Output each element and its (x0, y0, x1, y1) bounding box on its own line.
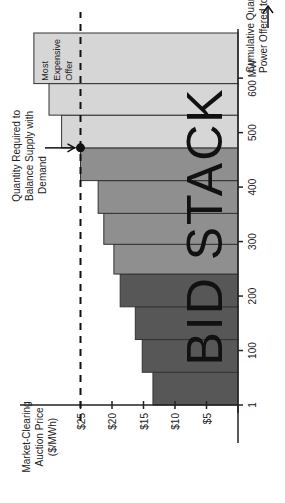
demand-annotation-line: Quantity Required to (11, 110, 22, 202)
quantity-axis-label-line: Power Offered to Market (258, 0, 269, 73)
bid-stack-chart: BID STACK$5$10$15$20$2511002003004005006… (0, 0, 285, 503)
demand-annotation-line: Balance Supply with (24, 111, 35, 201)
quantity-tick-label: 1 (247, 402, 258, 408)
bid-stack-label: BID STACK (177, 87, 233, 365)
price-axis-label-line: Auction Price (34, 407, 45, 466)
expensive-annotation-line: Most (40, 61, 50, 81)
bid-bar (153, 372, 238, 405)
price-axis-label-line: Market-Clearing (21, 401, 32, 472)
price-tick-label: $5 (202, 413, 213, 425)
price-axis-label-line: ($/MWh) (47, 418, 58, 456)
expensive-annotation-line: Expensive (52, 39, 62, 81)
quantity-tick-label: 300 (247, 233, 258, 250)
price-tick-label: $20 (107, 413, 118, 430)
demand-point-marker (76, 143, 85, 152)
quantity-tick-label: 500 (247, 124, 258, 141)
price-tick-label: $15 (139, 413, 150, 430)
quantity-tick-label: 100 (247, 342, 258, 359)
quantity-axis-label-line: Cumulative Quantity of (245, 0, 256, 73)
expensive-annotation-line: Offer (64, 61, 74, 81)
price-tick-label: $10 (170, 413, 181, 430)
quantity-tick-label: 200 (247, 287, 258, 304)
quantity-tick-label: 400 (247, 178, 258, 195)
chart-canvas: BID STACK$5$10$15$20$2511002003004005006… (0, 0, 285, 503)
price-tick-label: $25 (76, 413, 87, 430)
demand-annotation-line: Demand (37, 156, 48, 194)
